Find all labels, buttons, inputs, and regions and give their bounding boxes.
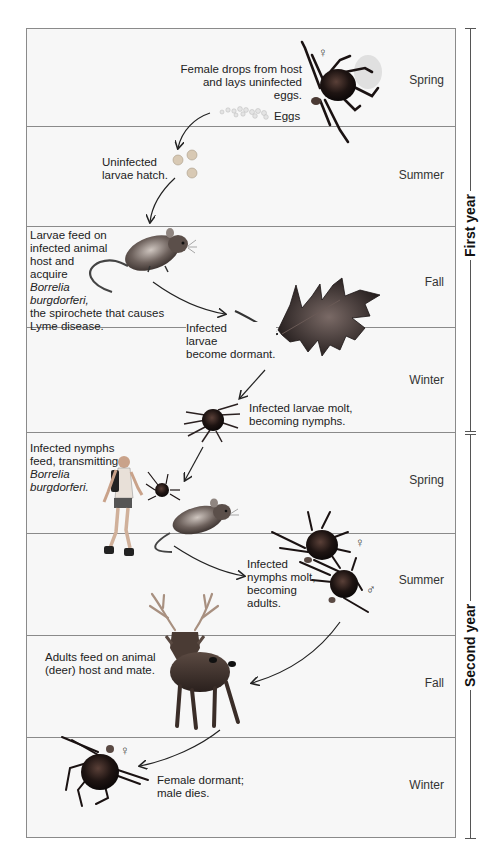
note-larvae-dormant: Infected larvae become dormant. (186, 322, 276, 361)
season-label-y1-fall: Fall (425, 275, 444, 289)
female-symbol: ♀ (355, 535, 365, 550)
note-nymphs-feed: Infected nymphs feed, transmitting Borre… (30, 442, 118, 494)
season-label-y1-spring: Spring (409, 73, 444, 87)
season-label-y2-spring: Spring (409, 473, 444, 487)
note-female-drops: Female drops from host and lays uninfect… (172, 63, 302, 102)
female-symbol: ♀ (120, 743, 130, 758)
season-label-y2-summer: Summer (399, 573, 444, 587)
note-eggs: Eggs (274, 110, 300, 123)
male-symbol: ♂ (366, 582, 376, 597)
note-larvae-molt: Infected larvae molt, becoming nymphs. (249, 402, 353, 428)
larvae-icon (173, 150, 197, 178)
eggs-icon (220, 107, 268, 120)
female-symbol: ♀ (318, 45, 328, 60)
adult-female-tick-icon (302, 42, 382, 142)
season-label-y2-fall: Fall (425, 676, 444, 690)
season-label-y2-winter: Winter (409, 778, 444, 792)
season-label-y1-winter: Winter (409, 373, 444, 387)
note-adults-feed: Adults feed on animal (deer) host and ma… (45, 651, 156, 677)
note-nymphs-molt: Infected nymphs molt, becoming adults. (247, 558, 315, 610)
year-bracket-cap (465, 431, 476, 432)
dormant-female-tick-icon (62, 737, 148, 806)
season-label-y1-summer: Summer (399, 168, 444, 182)
first-year-label: First year (462, 191, 478, 260)
year-bracket-cap (465, 838, 476, 839)
second-year-label: Second year (462, 601, 478, 690)
deer-icon (150, 594, 238, 728)
mouse-2-icon (155, 499, 239, 553)
note-female-dormant: Female dormant; male dies. (157, 774, 244, 800)
note-larvae-feed: Larvae feed on infected animal host and … (30, 229, 164, 333)
note-larvae-hatch: Uninfected larvae hatch. (102, 156, 168, 182)
lifecycle-illustrations (0, 0, 496, 867)
nymph-tick-icon (184, 404, 240, 442)
small-nymph-tick-icon (146, 472, 180, 500)
